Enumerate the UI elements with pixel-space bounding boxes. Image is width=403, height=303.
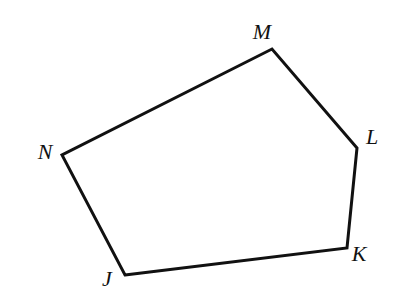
geometry-figure: J K L M N — [0, 0, 403, 303]
vertex-label-k: K — [352, 243, 367, 265]
pentagon-outline — [62, 49, 357, 275]
pentagon-shape — [0, 0, 403, 303]
vertex-label-m: M — [253, 21, 271, 43]
vertex-label-l: L — [366, 126, 378, 148]
vertex-label-n: N — [38, 141, 53, 163]
vertex-label-j: J — [102, 268, 112, 290]
